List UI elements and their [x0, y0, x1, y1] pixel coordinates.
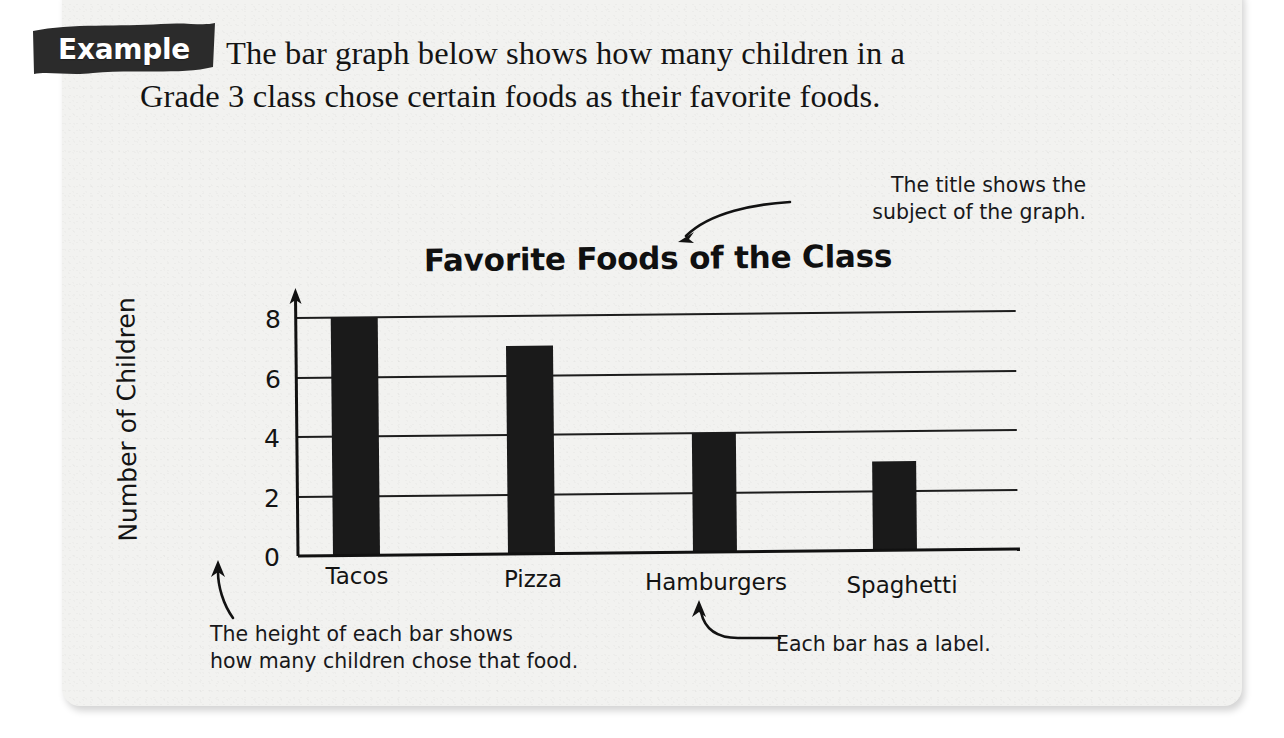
intro-line-2: Grade 3 class chose certain foods as the… — [140, 75, 1126, 118]
annotation-label-note-line-1: Each bar has a label. — [776, 631, 1076, 658]
annotation-title-note: The title shows the subject of the graph… — [786, 172, 1086, 226]
annotation-height-note-line-1: The height of each bar shows — [210, 621, 630, 648]
intro-paragraph: The bar graph below shows how many child… — [226, 32, 1126, 118]
annotation-height-note: The height of each bar shows how many ch… — [210, 621, 630, 675]
example-badge-label: Example — [31, 21, 217, 79]
annotation-height-note-line-2: how many children chose that food. — [210, 648, 630, 675]
annotation-title-note-line-2: subject of the graph. — [786, 199, 1086, 226]
intro-line-1: The bar graph below shows how many child… — [226, 35, 905, 71]
example-badge: Example — [31, 21, 217, 79]
annotation-label-note: Each bar has a label. — [776, 631, 1076, 658]
worksheet-page: Example The bar graph below shows how ma… — [0, 0, 1284, 738]
annotation-title-note-line-1: The title shows the — [786, 172, 1086, 199]
